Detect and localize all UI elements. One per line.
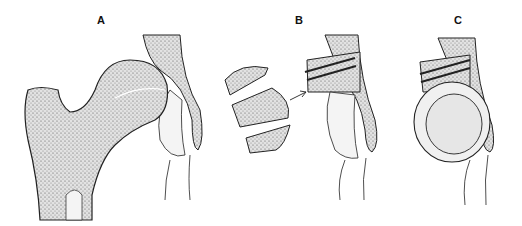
panel-b-hip — [305, 35, 377, 200]
panel-a-drawing — [25, 35, 202, 220]
panel-label-b: B — [295, 14, 303, 26]
figure-canvas — [0, 0, 522, 226]
panel-c-drawing — [414, 38, 494, 205]
panel-label-a: A — [97, 14, 105, 26]
panel-label-c: C — [454, 14, 462, 26]
panel-b-fragments — [225, 67, 306, 154]
